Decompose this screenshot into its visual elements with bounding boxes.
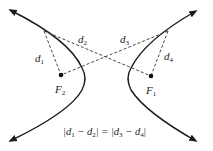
- label-f1: F1: [145, 84, 157, 98]
- d2-line: [44, 31, 151, 76]
- label-d2: d2: [78, 33, 88, 47]
- focus-f2-point: [59, 73, 64, 78]
- label-d3: d3: [120, 33, 130, 47]
- d1-line: [44, 31, 61, 75]
- label-d4: d4: [164, 50, 174, 64]
- hyperbola-diagram: d1 d2 d3 d4 F2 F1 |d1 − d2| = |d3 − d4|: [0, 0, 213, 151]
- label-d1: d1: [35, 52, 45, 66]
- label-f2: F2: [54, 83, 66, 97]
- equation: |d1 − d2| = |d3 − d4|: [63, 126, 146, 139]
- right-branch: [128, 11, 196, 141]
- focus-f1-point: [149, 74, 154, 79]
- left-branch: [10, 10, 85, 141]
